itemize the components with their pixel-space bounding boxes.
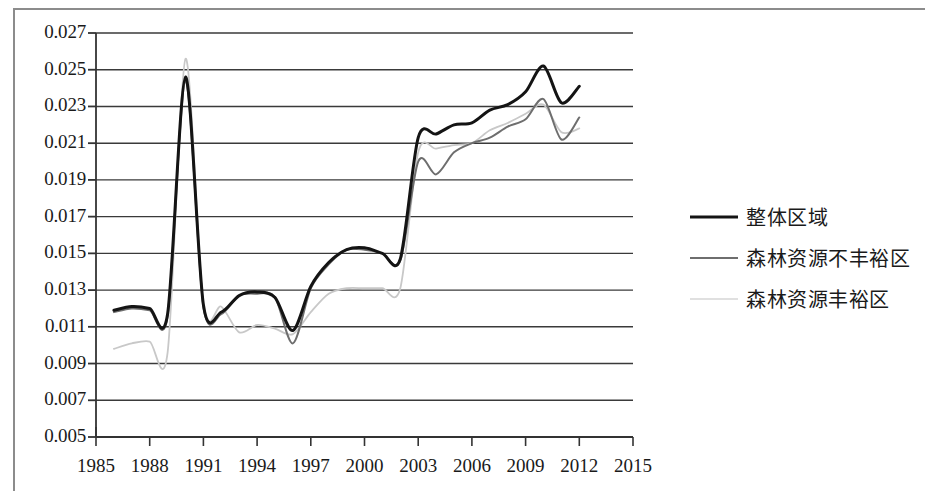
series-line (114, 81, 579, 344)
legend-item-label: 整体区域 (746, 202, 828, 231)
gridlines (96, 33, 633, 437)
legend-line-icon (688, 292, 740, 306)
legend-item[interactable]: 森林资源不丰裕区 (688, 237, 928, 278)
chart-figure: 0.0270.0250.0230.0210.0190.0170.0150.013… (0, 0, 939, 491)
legend-item-label: 森林资源丰裕区 (746, 284, 890, 313)
legend-item-label: 森林资源不丰裕区 (746, 243, 910, 272)
legend-line-icon (688, 251, 740, 265)
legend-line-icon (688, 210, 740, 224)
chart-legend: 整体区域森林资源不丰裕区森林资源丰裕区 (688, 196, 928, 319)
data-curves (114, 59, 579, 370)
y-axis-ticks (88, 33, 96, 437)
legend-item[interactable]: 森林资源丰裕区 (688, 278, 928, 319)
series-line (114, 66, 579, 331)
legend-item[interactable]: 整体区域 (688, 196, 928, 237)
